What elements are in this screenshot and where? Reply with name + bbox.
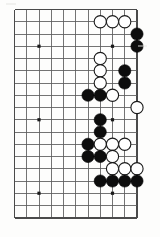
black-stone xyxy=(82,138,94,150)
white-stone xyxy=(94,16,106,28)
white-stone xyxy=(131,101,143,113)
white-stone xyxy=(106,138,118,150)
white-stone xyxy=(106,163,118,175)
white-stone xyxy=(94,65,106,77)
black-stone xyxy=(119,77,131,89)
black-stone xyxy=(131,28,143,40)
star-point xyxy=(37,192,40,195)
black-stone xyxy=(131,175,143,187)
white-stone xyxy=(106,89,118,101)
star-point xyxy=(37,45,40,48)
black-stone xyxy=(94,114,106,126)
star-point xyxy=(111,118,114,121)
white-stone xyxy=(94,52,106,64)
black-stone xyxy=(82,150,94,162)
white-stone xyxy=(94,77,106,89)
black-stone xyxy=(94,175,106,187)
go-board-figure xyxy=(0,0,160,237)
white-stone xyxy=(119,16,131,28)
go-board-canvas xyxy=(0,0,160,237)
paper-artifact-right xyxy=(138,45,147,47)
white-stone xyxy=(94,138,106,150)
white-stone xyxy=(131,163,143,175)
star-point xyxy=(111,45,114,48)
white-stone xyxy=(119,163,131,175)
white-stone xyxy=(106,16,118,28)
black-stone xyxy=(94,89,106,101)
star-point xyxy=(37,118,40,121)
board-grid xyxy=(15,10,138,218)
black-stone xyxy=(106,175,118,187)
black-stone xyxy=(94,150,106,162)
black-stone xyxy=(119,65,131,77)
white-stone xyxy=(119,138,131,150)
paper-artifact-top xyxy=(6,3,16,5)
white-stone xyxy=(106,150,118,162)
black-stone xyxy=(82,89,94,101)
black-stone xyxy=(119,175,131,187)
page-root xyxy=(0,0,160,237)
black-stone xyxy=(94,126,106,138)
star-point xyxy=(111,192,114,195)
